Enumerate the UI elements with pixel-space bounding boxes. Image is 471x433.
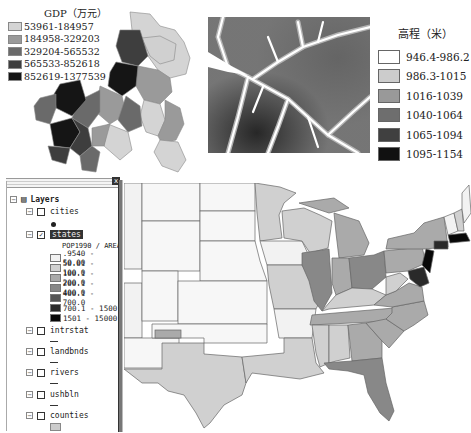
pop-swatch bbox=[50, 274, 61, 282]
layer-counties[interactable]: − counties bbox=[26, 411, 89, 420]
pop-swatch bbox=[50, 264, 61, 272]
elevation-class-label: 1016-1039 bbox=[406, 90, 463, 102]
layer-states[interactable]: − ✓ states bbox=[26, 230, 83, 239]
layer-cities[interactable]: − cities bbox=[26, 207, 79, 216]
layer-name: states bbox=[50, 230, 83, 239]
pop-swatch bbox=[50, 284, 61, 292]
gdp-class-label: 329204-565532 bbox=[24, 46, 100, 59]
elevation-class-label: 1040-1064 bbox=[406, 109, 463, 121]
layers-icon: ▤ bbox=[21, 194, 26, 204]
collapse-icon[interactable]: − bbox=[26, 327, 33, 334]
elevation-swatch bbox=[378, 89, 400, 103]
collapse-icon[interactable]: − bbox=[26, 412, 33, 419]
elevation-raster-map bbox=[208, 17, 370, 153]
layer-name: counties bbox=[50, 411, 89, 420]
pop-class-label: 700.1 - 1500 bbox=[63, 304, 117, 313]
elevation-swatch bbox=[378, 147, 400, 161]
pop-class-row: 700.1 - 1500 bbox=[50, 303, 117, 313]
point-symbol-icon bbox=[51, 222, 56, 227]
gdp-swatch bbox=[8, 47, 22, 56]
layer-visibility-checkbox[interactable] bbox=[37, 348, 45, 356]
gdp-swatch bbox=[8, 60, 22, 69]
gdp-class-label: 565533-852618 bbox=[24, 58, 100, 71]
elevation-legend-title: 高程（米） bbox=[378, 25, 470, 41]
elevation-legend-row: 1016-1039 bbox=[378, 86, 470, 106]
collapse-icon[interactable]: − bbox=[26, 208, 33, 215]
pop-swatch bbox=[50, 254, 61, 262]
elevation-legend-row: 1065-1094 bbox=[378, 125, 470, 145]
layer-rivers[interactable]: − rivers bbox=[26, 368, 79, 377]
collapse-icon[interactable]: − bbox=[26, 391, 33, 398]
pop-class-row: 400.1 - 700.0 bbox=[50, 293, 119, 303]
layer-visibility-checkbox[interactable]: ✓ bbox=[37, 231, 45, 239]
us-states-choropleth-map[interactable] bbox=[124, 183, 471, 433]
elevation-swatch bbox=[378, 108, 400, 122]
gdp-swatch bbox=[8, 22, 22, 31]
elevation-class-label: 946.4-986.2 bbox=[406, 51, 470, 63]
layers-root-label: Layers bbox=[30, 195, 59, 204]
gdp-swatch bbox=[8, 72, 22, 81]
layer-visibility-checkbox[interactable] bbox=[37, 369, 45, 377]
gdp-legend-row: 184958-329203 bbox=[8, 33, 107, 46]
gdp-legend-row: 565533-852618 bbox=[8, 58, 107, 71]
layer-ushbln[interactable]: − ushbln bbox=[26, 390, 79, 399]
elevation-class-label: 986.3-1015 bbox=[406, 70, 466, 82]
gdp-class-label: 852619-1377539 bbox=[24, 71, 106, 84]
line-symbol-icon bbox=[50, 362, 58, 363]
pop-class-label: 1501 - 15000 bbox=[63, 314, 117, 323]
collapse-icon[interactable]: − bbox=[26, 231, 33, 238]
pop-swatch bbox=[50, 314, 61, 322]
gdp-legend-row: 852619-1377539 bbox=[8, 71, 107, 84]
elevation-class-label: 1095-1154 bbox=[406, 148, 463, 160]
pop-swatch bbox=[50, 294, 61, 302]
elevation-class-label: 1065-1094 bbox=[406, 129, 463, 141]
elevation-swatch bbox=[378, 50, 400, 64]
collapse-icon[interactable]: − bbox=[26, 369, 33, 376]
layer-visibility-checkbox[interactable] bbox=[37, 412, 45, 420]
elevation-legend: 高程（米） 946.4-986.2 986.3-1015 1016-1039 1… bbox=[378, 25, 470, 164]
layer-visibility-checkbox[interactable] bbox=[37, 208, 45, 216]
layer-intrstat[interactable]: − intrstat bbox=[26, 326, 89, 335]
gdp-class-label: 184958-329203 bbox=[24, 33, 100, 46]
layer-name: ushbln bbox=[50, 390, 79, 399]
layer-visibility-checkbox[interactable] bbox=[37, 327, 45, 335]
map-splitter[interactable] bbox=[118, 180, 123, 432]
elevation-swatch bbox=[378, 69, 400, 83]
elevation-legend-row: 1040-1064 bbox=[378, 106, 470, 126]
collapse-icon[interactable]: − bbox=[26, 348, 33, 355]
layer-name: intrstat bbox=[50, 326, 89, 335]
gdp-legend-title: GDP（万元） bbox=[8, 8, 107, 21]
line-symbol-icon bbox=[50, 405, 58, 406]
elevation-legend-row: 946.4-986.2 bbox=[378, 47, 470, 67]
pop-class-row: 1501 - 15000 bbox=[50, 313, 117, 323]
elevation-legend-row: 986.3-1015 bbox=[378, 67, 470, 87]
toc-root-layers[interactable]: − ▤ Layers bbox=[10, 194, 59, 204]
gdp-legend-row: 53961-184957 bbox=[8, 21, 107, 34]
collapse-icon[interactable]: − bbox=[10, 196, 17, 203]
table-of-contents-panel: − ▤ Layers − cities − ✓ states POP1990 /… bbox=[6, 181, 119, 431]
layer-visibility-checkbox[interactable] bbox=[37, 391, 45, 399]
layer-name: cities bbox=[50, 207, 79, 216]
fill-symbol-icon bbox=[50, 423, 61, 431]
pop-swatch bbox=[50, 304, 61, 312]
line-symbol-icon bbox=[50, 383, 58, 384]
gdp-legend-row: 329204-565532 bbox=[8, 46, 107, 59]
gdp-swatch bbox=[8, 35, 22, 44]
gdp-legend: GDP（万元） 53961-184957 184958-329203 32920… bbox=[8, 8, 107, 83]
layer-name: landbnds bbox=[50, 347, 89, 356]
gdp-class-label: 53961-184957 bbox=[24, 21, 94, 34]
line-symbol-icon bbox=[50, 341, 58, 342]
elevation-legend-row: 1095-1154 bbox=[378, 145, 470, 165]
elevation-swatch bbox=[378, 128, 400, 142]
layer-name: rivers bbox=[50, 368, 79, 377]
layer-landbnds[interactable]: − landbnds bbox=[26, 347, 89, 356]
